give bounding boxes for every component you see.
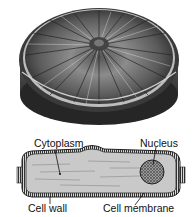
label-cytoplasm: Cytoplasm — [34, 138, 84, 149]
cross-section — [17, 146, 185, 206]
disc-top-view — [19, 8, 179, 125]
cell-illustration — [0, 0, 195, 217]
cell-diagram: Cytoplasm Nucleus Cell wall Cell membran… — [0, 0, 195, 217]
nucleus-shape — [140, 160, 164, 184]
label-cell-wall: Cell wall — [28, 203, 67, 214]
label-cell-membrane: Cell membrane — [103, 203, 174, 214]
label-nucleus: Nucleus — [140, 138, 178, 149]
